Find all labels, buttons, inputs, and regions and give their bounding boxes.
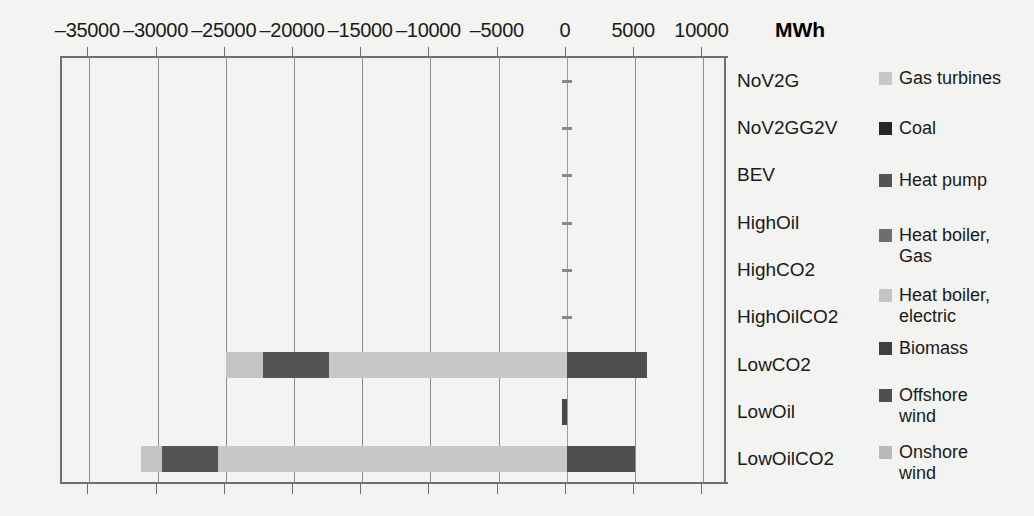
legend-label: Offshore wind — [899, 385, 968, 427]
legend-swatch-icon — [879, 289, 892, 302]
x-tick-mark-top — [701, 47, 702, 57]
x-tick-mark-bottom — [156, 483, 157, 494]
legend-label: Heat pump — [899, 170, 987, 191]
bar-row — [62, 304, 728, 330]
bar-segment[interactable] — [567, 352, 648, 378]
bar-row — [62, 210, 728, 236]
zero-value-marker — [562, 80, 572, 83]
bar-row — [62, 68, 728, 94]
x-tick-mark-bottom — [565, 483, 566, 494]
legend-swatch-icon — [879, 72, 892, 85]
legend-item[interactable]: Onshore wind — [879, 442, 968, 484]
x-tick-label: –20000 — [260, 18, 325, 42]
x-tick-mark-top — [224, 47, 225, 57]
zero-value-marker — [562, 174, 572, 177]
category-label-bev: BEV — [737, 163, 775, 187]
legend-item[interactable]: Heat boiler, electric — [879, 285, 990, 327]
x-tick-label: –10000 — [396, 18, 461, 42]
legend-swatch-icon — [879, 389, 892, 402]
bar-segment[interactable] — [329, 352, 567, 378]
x-tick-mark-bottom — [497, 483, 498, 494]
category-label-lowco2: LowCO2 — [737, 353, 811, 377]
bar-segment[interactable] — [162, 446, 218, 472]
category-label-nov2g: NoV2G — [737, 69, 799, 93]
x-tick-mark-top — [428, 47, 429, 57]
x-tick-mark-bottom — [360, 483, 361, 494]
x-tick-label: 10000 — [674, 18, 728, 42]
legend-item[interactable]: Gas turbines — [879, 68, 1001, 89]
category-label-lowoil: LowOil — [737, 400, 795, 424]
category-label-highco2: HighCO2 — [737, 258, 815, 282]
category-label-highoil: HighOil — [737, 211, 799, 235]
legend-item[interactable]: Coal — [879, 118, 936, 139]
x-tick-mark-top — [156, 47, 157, 57]
bar-row — [62, 352, 728, 378]
legend-item[interactable]: Heat pump — [879, 170, 987, 191]
bar-segment[interactable] — [567, 446, 635, 472]
zero-value-marker — [562, 127, 572, 130]
x-tick-label: 0 — [560, 18, 571, 42]
x-tick-label: –5000 — [470, 18, 524, 42]
x-tick-mark-top — [292, 47, 293, 57]
x-tick-mark-bottom — [224, 483, 225, 494]
legend-label: Coal — [899, 118, 936, 139]
bar-chart: –35000–30000–25000–20000–15000–10000–500… — [0, 0, 1034, 516]
x-tick-mark-top — [497, 47, 498, 57]
legend-label: Biomass — [899, 338, 968, 359]
x-tick-label: 5000 — [612, 18, 655, 42]
legend-swatch-icon — [879, 174, 892, 187]
x-tick-mark-bottom — [633, 483, 634, 494]
category-label-nov2gg2v: NoV2GG2V — [737, 116, 837, 140]
zero-value-marker — [562, 269, 572, 272]
legend-label: Heat boiler, electric — [899, 285, 990, 327]
bar-segment[interactable] — [218, 446, 567, 472]
bar-row — [62, 446, 728, 472]
legend-item[interactable]: Biomass — [879, 338, 968, 359]
x-axis-tick-labels: –35000–30000–25000–20000–15000–10000–500… — [0, 18, 1034, 44]
x-tick-mark-bottom — [87, 483, 88, 494]
bar-row — [62, 162, 728, 188]
x-tick-mark-top — [87, 47, 88, 57]
x-tick-label: –35000 — [55, 18, 120, 42]
legend-swatch-icon — [879, 446, 892, 459]
bar-row — [62, 399, 728, 425]
x-tick-mark-bottom — [428, 483, 429, 494]
legend-label: Heat boiler, Gas — [899, 225, 990, 267]
legend-swatch-icon — [879, 229, 892, 242]
legend-swatch-icon — [879, 342, 892, 355]
bar-segment[interactable] — [562, 399, 567, 425]
x-tick-mark-top — [633, 47, 634, 57]
axis-unit-label: MWh — [775, 17, 825, 43]
zero-value-marker — [562, 222, 572, 225]
legend-label: Gas turbines — [899, 68, 1001, 89]
bar-row — [62, 115, 728, 141]
category-label-highoilco2: HighOilCO2 — [737, 305, 838, 329]
x-tick-mark-bottom — [292, 483, 293, 494]
plot-area — [60, 57, 726, 483]
zero-value-marker — [562, 316, 572, 319]
legend-label: Onshore wind — [899, 442, 968, 484]
x-tick-label: –30000 — [123, 18, 188, 42]
legend-swatch-icon — [879, 122, 892, 135]
x-tick-label: –15000 — [328, 18, 393, 42]
x-tick-mark-top — [565, 47, 566, 57]
x-tick-mark-top — [360, 47, 361, 57]
bar-segment[interactable] — [263, 352, 329, 378]
bar-segment[interactable] — [226, 352, 263, 378]
x-tick-label: –25000 — [191, 18, 256, 42]
bar-segment[interactable] — [141, 446, 162, 472]
legend-item[interactable]: Offshore wind — [879, 385, 968, 427]
category-label-lowoilco2: LowOilCO2 — [737, 447, 834, 471]
x-tick-mark-bottom — [701, 483, 702, 494]
bar-row — [62, 257, 728, 283]
legend-item[interactable]: Heat boiler, Gas — [879, 225, 990, 267]
